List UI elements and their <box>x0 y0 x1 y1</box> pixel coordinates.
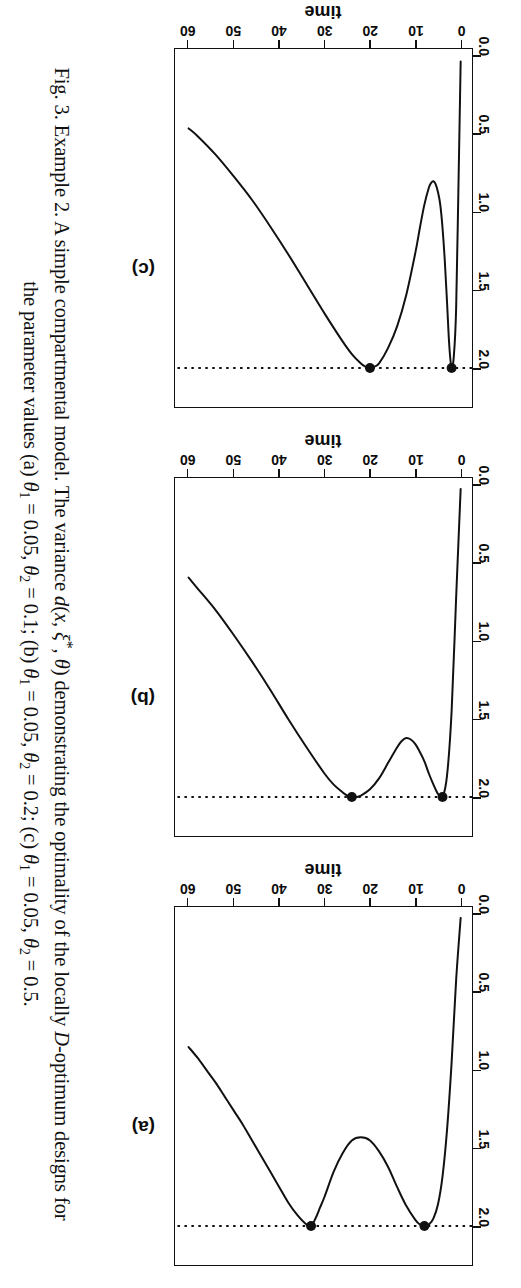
support-point-marker <box>306 1221 316 1231</box>
panel-b-letter: (b) <box>131 687 155 709</box>
x-axis-tick-label: 0 <box>458 23 466 39</box>
panel-b-support-points <box>347 792 448 802</box>
panel-a-variance-curve <box>189 918 461 1227</box>
x-axis-tick <box>415 898 417 906</box>
y-axis-tick-label: 0.0 <box>476 894 492 913</box>
y-axis-tick-label: 0.5 <box>476 973 492 992</box>
x-axis-tick <box>233 898 235 906</box>
x-axis-tick-label: 60 <box>180 452 196 468</box>
panel-a-plot-frame <box>174 906 473 1266</box>
x-axis-tick <box>233 469 235 477</box>
caption-text-2f: = 0.05, <box>20 871 42 938</box>
panel-c-y-axis: 0.00.51.01.52.0 <box>473 48 521 408</box>
x-axis-tick <box>233 40 235 48</box>
panel-b-variance-curve <box>189 489 461 798</box>
caption-math-star: * <box>60 641 77 649</box>
panel-a-curve-svg <box>175 907 472 1265</box>
caption-text-2a: the parameter values (a) <box>20 281 42 481</box>
x-axis-tick-label: 20 <box>363 23 379 39</box>
x-axis-tick-label: 50 <box>226 452 242 468</box>
y-axis-tick-label: 2.0 <box>476 349 492 368</box>
figure-container: (a) 0.00.51.01.52.0 variance 01020304050… <box>0 0 521 1288</box>
x-axis-tick-label: 50 <box>226 881 242 897</box>
panel-c-curve-svg <box>175 49 472 407</box>
x-axis-tick <box>324 469 326 477</box>
y-axis-tick-label: 1.5 <box>476 271 492 290</box>
y-axis-tick-label: 0.5 <box>476 115 492 134</box>
caption-theta-a2: θ <box>20 565 42 575</box>
caption-text-2g: = 0.5. <box>20 955 42 1007</box>
y-axis-tick-label: 1.5 <box>476 1129 492 1148</box>
y-axis-tick-label: 0.5 <box>476 544 492 563</box>
y-axis-tick-label: 0.0 <box>476 36 492 55</box>
plot-panel-column: (a) 0.00.51.01.52.0 variance 01020304050… <box>81 0 521 1288</box>
caption-comma-2: , <box>52 649 74 659</box>
y-axis-tick-label: 1.5 <box>476 700 492 719</box>
y-axis-tick-label: 2.0 <box>476 1207 492 1226</box>
panel-c-plot-frame <box>174 48 473 408</box>
x-axis-tick-label: 60 <box>180 23 196 39</box>
panel-a-plot-area <box>175 907 472 1265</box>
caption-theta-c1-sub: 1 <box>17 864 32 871</box>
caption-theta-b2: θ <box>20 752 42 762</box>
caption-math-theta: θ <box>52 659 74 669</box>
x-axis-tick <box>187 469 189 477</box>
x-axis-tick <box>278 469 280 477</box>
x-axis-tick <box>324 898 326 906</box>
caption-math-D: D <box>52 1031 74 1046</box>
x-axis-tick-label: 50 <box>226 23 242 39</box>
caption-figure-label: Fig. 3. <box>52 67 74 119</box>
panel-c-x-axis-title: time <box>304 1 341 22</box>
y-axis-tick-label: 0.0 <box>476 465 492 484</box>
panel-a: (a) 0.00.51.01.52.0 variance 01020304050… <box>81 859 521 1288</box>
x-axis-tick <box>461 40 463 48</box>
caption-math-x: x <box>52 613 74 622</box>
y-axis-tick-label: 1.0 <box>476 193 492 212</box>
caption-math-xi: ξ <box>52 632 74 641</box>
panel-b-plot-area <box>175 478 472 836</box>
support-point-marker <box>438 792 448 802</box>
x-axis-tick <box>324 40 326 48</box>
x-axis-tick <box>278 40 280 48</box>
x-axis-tick <box>461 469 463 477</box>
caption-theta-c1: θ <box>20 854 42 864</box>
caption-theta-c2: θ <box>20 938 42 948</box>
caption-theta-c2-sub: 2 <box>17 948 32 955</box>
caption-theta-b1: θ <box>20 668 42 678</box>
caption-text-2e: = 0.2; (c) <box>20 769 42 854</box>
y-axis-tick-label: 1.0 <box>476 1051 492 1070</box>
caption-line-1: Fig. 3. Example 2. A simple compartmenta… <box>46 67 79 1220</box>
caption-line-2: the parameter values (a) θ1 = 0.05, θ2 =… <box>14 281 46 1006</box>
x-axis-tick-label: 20 <box>363 881 379 897</box>
caption-text-1b: demonstrating the optimality of the loca… <box>52 675 74 1031</box>
caption-comma-1: , <box>52 622 74 632</box>
caption-text-1a: Example 2. A simple compartmental model.… <box>52 125 74 596</box>
x-axis-tick <box>370 469 372 477</box>
caption-math-d: d <box>52 596 74 606</box>
caption-theta-a1: θ <box>20 481 42 491</box>
panel-b: (b) 0.00.51.01.52.0 variance 01020304050… <box>81 430 521 859</box>
x-axis-tick <box>415 40 417 48</box>
x-axis-tick <box>370 898 372 906</box>
x-axis-tick-label: 40 <box>271 881 287 897</box>
x-axis-tick-label: 30 <box>317 452 333 468</box>
x-axis-tick-label: 40 <box>271 23 287 39</box>
support-point-marker <box>447 363 457 373</box>
caption-text-1c: -optimum designs for <box>52 1046 74 1221</box>
panel-a-letter: (a) <box>132 1116 155 1138</box>
panel-c-plot-area <box>175 49 472 407</box>
x-axis-tick <box>187 898 189 906</box>
panel-a-y-axis: 0.00.51.01.52.0 <box>473 906 521 1266</box>
caption-text-2c: = 0.1; (b) <box>20 582 42 668</box>
panel-c: (c) 0.00.51.01.52.0 variance 01020304050… <box>81 1 521 430</box>
support-point-marker <box>365 363 375 373</box>
panel-a-x-axis-title: time <box>304 859 341 880</box>
panel-b-x-axis-title: time <box>304 430 341 451</box>
x-axis-tick-label: 10 <box>408 452 424 468</box>
x-axis-tick-label: 10 <box>408 23 424 39</box>
x-axis-tick-label: 60 <box>180 881 196 897</box>
caption-paren-open: ( <box>52 606 74 613</box>
caption-text-2d: = 0.05, <box>20 685 42 752</box>
x-axis-tick-label: 0 <box>458 452 466 468</box>
x-axis-tick-label: 30 <box>317 881 333 897</box>
